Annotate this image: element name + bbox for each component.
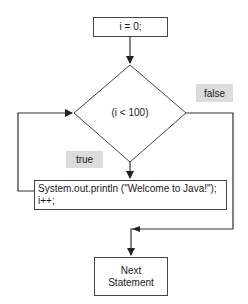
next-line-2: Statement: [108, 277, 154, 289]
next-statement-node: Next Statement: [94, 257, 168, 296]
body-line-1: System.out.println ("Welcome to Java!");: [38, 183, 223, 195]
body-node: System.out.println ("Welcome to Java!");…: [34, 180, 227, 210]
condition-label: (i < 100): [100, 107, 160, 118]
init-node: i = 0;: [93, 17, 168, 37]
false-label: false: [196, 84, 233, 102]
next-line-1: Next: [121, 265, 142, 277]
body-line-2: i++;: [38, 195, 223, 207]
init-label: i = 0;: [120, 21, 142, 33]
arrow-head-icon: [132, 226, 140, 232]
true-label: true: [66, 151, 103, 168]
